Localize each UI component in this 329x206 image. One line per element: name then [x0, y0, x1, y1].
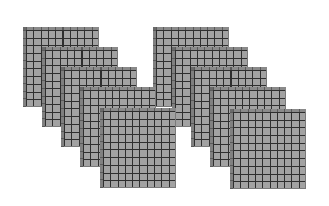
block-face: [233, 112, 306, 189]
hundred-flat-block: [100, 108, 177, 188]
hundred-flat-block: [230, 109, 307, 189]
block-face: [103, 111, 176, 188]
